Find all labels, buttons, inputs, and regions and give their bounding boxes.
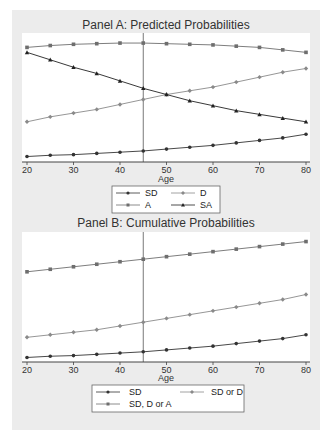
square-marker-icon	[48, 44, 52, 48]
square-marker-icon	[188, 252, 192, 256]
square-marker-icon	[234, 247, 238, 251]
circle-marker-icon	[281, 337, 285, 341]
square-marker-icon	[281, 48, 285, 52]
circle-marker-icon	[165, 147, 169, 151]
svg-text:SD: SD	[129, 387, 142, 397]
circle-marker-icon	[281, 136, 285, 140]
square-marker-icon	[141, 257, 145, 261]
svg-text:D: D	[200, 188, 207, 198]
square-marker-icon	[165, 255, 169, 259]
square-marker-icon	[127, 204, 130, 207]
circle-marker-icon	[258, 339, 262, 343]
circle-marker-icon	[25, 356, 29, 360]
x-tick-label: 80	[301, 365, 311, 375]
figure: Panel A: Predicted Probabilities 2030405…	[0, 0, 328, 436]
circle-marker-icon	[258, 139, 262, 143]
panel-b: Panel B: Cumulative Probabilities 203040…	[22, 216, 311, 412]
svg-text:SD or D: SD or D	[211, 387, 244, 397]
square-marker-icon	[165, 42, 169, 46]
panel-b-x-label: Age	[158, 373, 174, 383]
square-marker-icon	[95, 42, 99, 46]
circle-marker-icon	[118, 150, 122, 154]
square-marker-icon	[48, 267, 52, 271]
circle-marker-icon	[211, 344, 215, 348]
panel-b-legend: SD SD or D SD, D or A	[92, 385, 244, 412]
svg-text:A: A	[145, 200, 151, 210]
circle-marker-icon	[304, 132, 308, 136]
panel-b-title: Panel B: Cumulative Probabilities	[77, 216, 254, 230]
svg-text:SD: SD	[145, 188, 158, 198]
square-marker-icon	[211, 250, 215, 254]
svg-text:SA: SA	[200, 200, 212, 210]
panel-a-title: Panel A: Predicted Probabilities	[82, 18, 249, 32]
square-marker-icon	[304, 240, 308, 244]
x-tick-label: 70	[254, 365, 264, 375]
circle-marker-icon	[126, 191, 129, 194]
square-marker-icon	[258, 245, 262, 249]
circle-marker-icon	[304, 333, 308, 337]
circle-marker-icon	[25, 155, 29, 159]
circle-marker-icon	[211, 144, 215, 148]
square-marker-icon	[118, 41, 122, 45]
panel-a-plot-area	[22, 33, 310, 162]
x-tick-label: 70	[254, 165, 264, 175]
circle-marker-icon	[234, 141, 238, 145]
square-marker-icon	[234, 44, 238, 48]
circle-marker-icon	[165, 348, 169, 352]
square-marker-icon	[258, 46, 262, 50]
x-tick-label: 30	[68, 165, 78, 175]
x-tick-label: 40	[115, 365, 125, 375]
circle-marker-icon	[106, 390, 109, 393]
x-tick-label: 20	[22, 365, 32, 375]
square-marker-icon	[25, 270, 29, 274]
circle-marker-icon	[48, 354, 52, 358]
x-tick-label: 40	[115, 165, 125, 175]
square-marker-icon	[188, 43, 192, 47]
square-marker-icon	[211, 43, 215, 47]
x-tick-label: 30	[68, 365, 78, 375]
circle-marker-icon	[48, 153, 52, 157]
circle-marker-icon	[141, 350, 145, 354]
svg-text:SD, D or A: SD, D or A	[129, 399, 172, 409]
square-marker-icon	[107, 403, 110, 406]
x-tick-label: 60	[208, 165, 218, 175]
panel-a: Panel A: Predicted Probabilities 2030405…	[22, 18, 311, 213]
square-marker-icon	[304, 51, 308, 55]
x-tick-label: 60	[208, 365, 218, 375]
panel-a-legend: SD D A SA	[112, 186, 220, 213]
circle-marker-icon	[72, 354, 76, 358]
square-marker-icon	[118, 260, 122, 264]
square-marker-icon	[25, 46, 29, 50]
circle-marker-icon	[95, 353, 99, 357]
panel-a-x-label: Age	[158, 174, 174, 184]
square-marker-icon	[72, 43, 76, 47]
circle-marker-icon	[141, 149, 145, 153]
circle-marker-icon	[118, 351, 122, 355]
circle-marker-icon	[188, 346, 192, 350]
circle-marker-icon	[188, 145, 192, 149]
x-tick-label: 20	[22, 165, 32, 175]
panel-b-plot-area	[22, 232, 310, 362]
square-marker-icon	[281, 242, 285, 246]
x-tick-label: 80	[301, 165, 311, 175]
circle-marker-icon	[95, 152, 99, 156]
square-marker-icon	[72, 265, 76, 269]
circle-marker-icon	[234, 342, 238, 346]
circle-marker-icon	[72, 153, 76, 157]
square-marker-icon	[95, 262, 99, 266]
square-marker-icon	[141, 41, 145, 45]
